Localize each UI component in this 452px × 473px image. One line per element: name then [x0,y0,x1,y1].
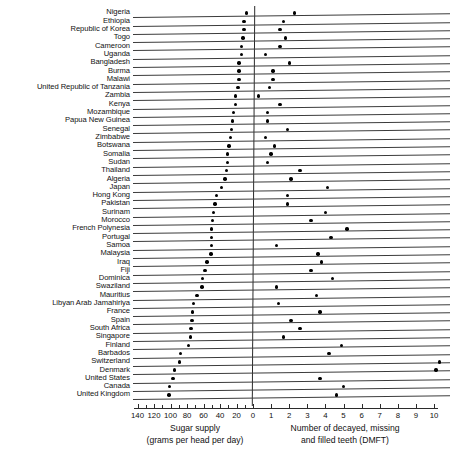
dmft-dot [298,169,301,172]
row-baseline [133,288,450,293]
sugar-supply-dot [231,119,234,122]
row-baseline [133,346,450,351]
axis-tick-major [271,404,272,409]
sugar-supply-dot [234,94,237,97]
axis-tick-minor [146,405,147,408]
dmft-dot [316,252,319,255]
row-baseline [133,88,450,93]
row-baseline [133,396,450,401]
dmft-dot [309,219,312,222]
dmft-dot [315,294,318,297]
axis-tick-major [344,404,345,409]
dmft-dot [289,319,292,322]
axis-tick-major [204,404,205,409]
dmft-dot [318,377,321,380]
row-baseline [133,329,450,334]
row-baseline [133,155,450,160]
axis-baseline [134,408,439,409]
dmft-dot [266,161,269,164]
axis-tick-major [253,404,254,409]
sugar-supply-dot [215,194,218,197]
row-baseline [133,105,450,110]
sugar-supply-dot [191,310,194,313]
caption-line: and filled teeth (DMFT) [245,435,445,447]
row-baseline [133,229,450,234]
dmft-dot [286,128,289,131]
dmft-dot [438,360,441,363]
axis-tick-major [434,404,435,409]
row-baseline [133,213,450,218]
row-baseline [133,238,450,243]
sugar-supply-dot [229,136,232,139]
row-baseline [133,113,450,118]
bottom-axis: 14012010080604020012345678910 [0,0,452,64]
dmft-dot [271,69,274,72]
axis-tick-major [325,404,326,409]
sugar-supply-dot [234,103,237,106]
sugar-supply-dot [178,360,181,363]
dmft-dot [266,119,269,122]
row-baseline [133,337,450,342]
caption-line: Number of decayed, missing [245,423,445,435]
axis-tick-minor [212,405,213,408]
sugar-supply-dot [225,169,228,172]
axis-tick-major [187,404,188,409]
dmft-dot [277,302,280,305]
row-baseline [133,254,450,259]
dmft-dot [324,211,327,214]
sugar-supply-dot [210,244,213,247]
axis-tick-major [362,404,363,409]
sugar-supply-dot [173,368,176,371]
dmft-dot [275,244,278,247]
axis-tick-minor [228,405,229,408]
row-baseline [133,271,450,276]
axis-tick-major [220,404,221,409]
row-baseline [133,371,450,376]
sugar-supply-dot [200,285,203,288]
row-baseline [133,122,450,127]
dmft-dot [278,103,281,106]
right-axis-caption: Number of decayed, missingand filled tee… [245,423,445,446]
axis-tick-major [398,404,399,409]
axis-tick-label: 10 [422,411,446,420]
dmft-dot [273,144,276,147]
sugar-supply-dot [212,211,215,214]
row-baseline [133,221,450,226]
row-baseline [133,246,450,251]
row-baseline [133,279,450,284]
sugar-supply-dot [167,393,170,396]
axis-tick-major [237,404,238,409]
sugar-supply-dot [195,294,198,297]
sugar-supply-dot [203,269,206,272]
sugar-supply-dot [189,335,192,338]
sugar-supply-dot [179,352,182,355]
dmft-dot [268,86,271,89]
row-baseline [133,163,450,168]
sugar-supply-dot [236,86,239,89]
row-baseline [133,171,450,176]
dmft-dot [257,94,260,97]
sugar-supply-dot [237,69,240,72]
axis-tick-minor [245,405,246,408]
sugar-supply-dot [232,111,235,114]
dmft-dot [327,352,330,355]
row-baseline [133,188,450,193]
sugar-supply-dot [168,385,171,388]
sugar-supply-dot [210,236,213,239]
dmft-dot [318,310,321,313]
dmft-dot [264,136,267,139]
axis-tick-major [307,404,308,409]
row-baseline [133,138,450,143]
dmft-dot [335,393,338,396]
axis-tick-minor [179,405,180,408]
dmft-dot [434,368,437,371]
sugar-supply-dot [192,302,195,305]
axis-tick-minor [162,405,163,408]
row-baseline [133,63,450,68]
sugar-supply-dot [209,252,212,255]
sugar-supply-dot [189,327,192,330]
sugar-supply-dot [210,227,213,230]
row-baseline [133,130,450,135]
sugar-supply-dot [227,144,230,147]
dmft-dot [286,194,289,197]
